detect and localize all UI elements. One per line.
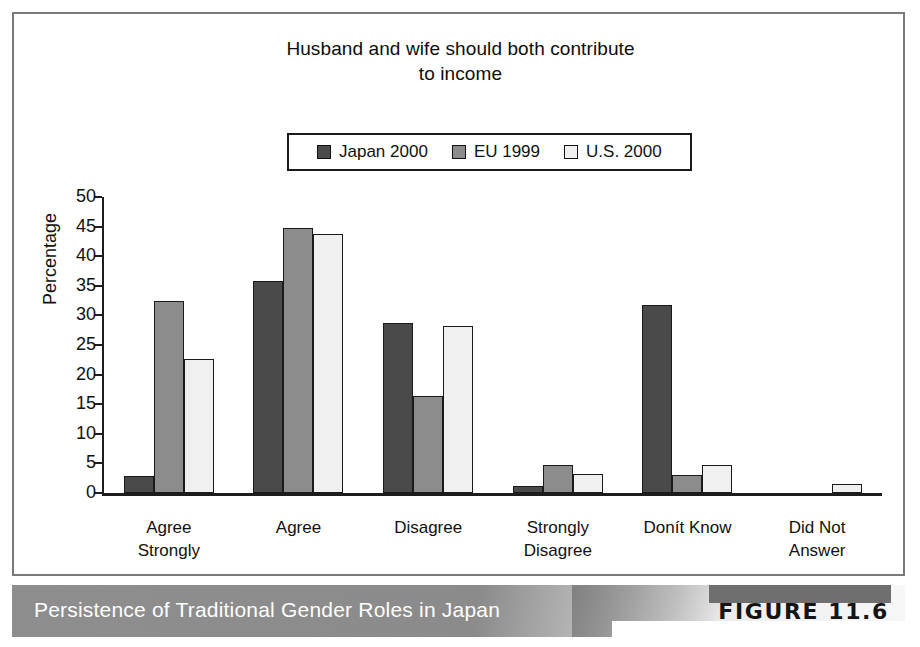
chart-frame: Husband and wife should both contribute … [12,12,905,576]
legend-entry: Japan 2000 [317,142,428,162]
y-axis-tick-label: 50 [76,186,96,207]
bar [443,326,473,493]
x-axis-category-label: Agree [234,516,364,539]
figure-number-label: FIGURE 11.6 [718,599,889,624]
bar [313,234,343,493]
y-axis-tick-label: 10 [76,423,96,444]
y-axis-tick-label: 15 [76,393,96,414]
chart-title: Husband and wife should both contribute … [14,36,907,86]
y-axis-tick-label: 30 [76,304,96,325]
bar [573,474,603,493]
x-axis-category-label-line: Strongly [104,539,234,562]
bar-group [104,197,234,493]
bar-group [752,197,882,493]
legend-swatch-icon [564,145,578,159]
legend-label: Japan 2000 [339,142,428,162]
bars-layer [104,197,882,493]
x-axis-category-label-line: Strongly [493,516,623,539]
figure-caption-band: Persistence of Traditional Gender Roles … [12,585,905,637]
figure-caption-text: Persistence of Traditional Gender Roles … [34,598,500,622]
plot-area: 05101520253035404550 Percentage [102,197,882,507]
x-axis-category-label-line: Answer [752,539,882,562]
y-axis-tick-label: 5 [86,452,96,473]
figure-container: Husband and wife should both contribute … [0,0,920,647]
x-axis-category-label: Disagree [363,516,493,539]
y-axis-tick-label: 0 [86,482,96,503]
y-axis-tick-label: 45 [76,216,96,237]
legend-entry: EU 1999 [452,142,540,162]
bar [154,301,184,493]
y-axis-tick-label: 40 [76,245,96,266]
x-axis-category-label-line: Disagree [493,539,623,562]
x-axis-category-label: AgreeStrongly [104,516,234,562]
legend-label: U.S. 2000 [586,142,662,162]
legend-entry: U.S. 2000 [564,142,662,162]
bar-group [234,197,364,493]
legend-swatch-icon [317,145,331,159]
y-axis-tick-label: 20 [76,364,96,385]
bar [184,359,214,493]
x-axis-category-label-line: Did Not [752,516,882,539]
x-axis-category-label: StronglyDisagree [493,516,623,562]
bar [832,484,862,493]
x-axis-category-label-line: Agree [104,516,234,539]
bar [124,476,154,493]
bar [642,305,672,493]
chart-title-line-1: Husband and wife should both contribute [14,36,907,61]
bar [672,475,702,493]
legend-swatch-icon [452,145,466,159]
bar [513,486,543,493]
x-axis-category-label: Did NotAnswer [752,516,882,562]
bar-group [363,197,493,493]
legend-label: EU 1999 [474,142,540,162]
chart-title-line-2: to income [14,61,907,86]
chart-legend: Japan 2000EU 1999U.S. 2000 [287,133,692,171]
bar [283,228,313,493]
x-axis-category-label-line: Agree [234,516,364,539]
bar [383,323,413,493]
bar-group [623,197,753,493]
y-axis-tick-label: 35 [76,275,96,296]
x-axis-category-labels: AgreeStronglyAgreeDisagreeStronglyDisagr… [104,506,884,576]
x-axis-line [102,493,882,496]
y-axis-tick-label: 25 [76,334,96,355]
x-axis-category-label-line: Disagree [363,516,493,539]
x-axis-category-label: Donít Know [623,516,753,539]
bar-group [493,197,623,493]
bar [253,281,283,493]
bar [413,396,443,493]
y-axis-title: Percentage [40,213,61,305]
bar [543,465,573,493]
bar [702,465,732,493]
x-axis-category-label-line: Donít Know [623,516,753,539]
